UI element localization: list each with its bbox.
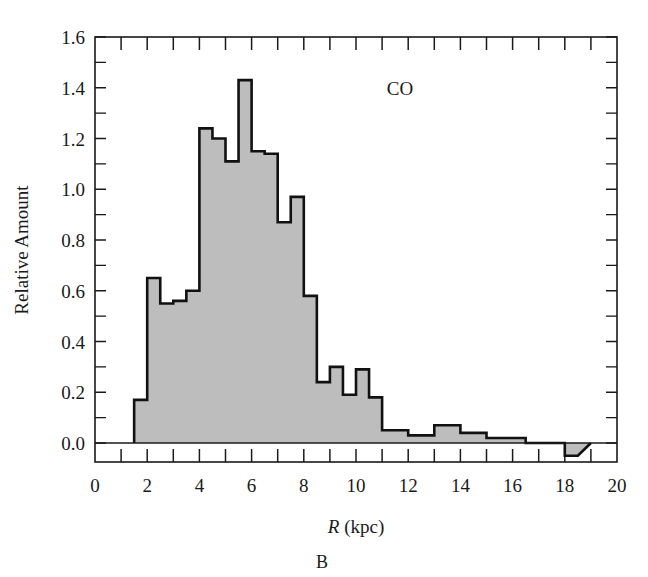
x-axis-tick-label: 14 bbox=[451, 475, 471, 496]
x-axis-tick-label: 6 bbox=[247, 475, 257, 496]
y-axis-tick-label: 1.6 bbox=[61, 27, 85, 48]
y-axis-tick-label: 0.2 bbox=[61, 382, 85, 403]
series-label: CO bbox=[387, 78, 413, 99]
x-axis-tick-label: 10 bbox=[347, 475, 366, 496]
panel-caption: B bbox=[316, 552, 328, 572]
x-axis-title: R (kpc) bbox=[327, 516, 384, 538]
x-axis-title-symbol: R bbox=[327, 516, 340, 537]
x-axis-tick-label: 18 bbox=[555, 475, 574, 496]
x-axis-tick-label: 4 bbox=[195, 475, 205, 496]
y-axis-tick-label: 1.4 bbox=[61, 78, 85, 99]
y-axis-tick-labels: 0.00.20.40.60.81.01.21.41.6 bbox=[61, 27, 85, 454]
y-axis-tick-label: 0.4 bbox=[61, 332, 85, 353]
x-axis-tick-label: 0 bbox=[90, 475, 100, 496]
y-axis-tick-label: 0.8 bbox=[61, 230, 85, 251]
x-axis-tick-label: 16 bbox=[503, 475, 522, 496]
figure-panel: 0.00.20.40.60.81.01.21.41.6 024681012141… bbox=[0, 0, 648, 577]
x-axis-title-units: (kpc) bbox=[339, 516, 384, 538]
x-axis-tick-labels: 02468101214161820 bbox=[90, 475, 626, 496]
x-axis-tick-label: 12 bbox=[399, 475, 418, 496]
y-axis-tick-label: 0.0 bbox=[61, 433, 85, 454]
x-axis-tick-label: 2 bbox=[142, 475, 152, 496]
histogram-area bbox=[134, 80, 591, 456]
y-axis-tick-label: 1.0 bbox=[61, 179, 85, 200]
histogram-chart: 0.00.20.40.60.81.01.21.41.6 024681012141… bbox=[0, 0, 648, 577]
y-axis-tick-label: 0.6 bbox=[61, 281, 85, 302]
y-axis-tick-label: 1.2 bbox=[61, 129, 85, 150]
y-axis-title: Relative Amount bbox=[11, 185, 32, 315]
x-axis-tick-label: 8 bbox=[299, 475, 309, 496]
x-axis-tick-label: 20 bbox=[608, 475, 627, 496]
